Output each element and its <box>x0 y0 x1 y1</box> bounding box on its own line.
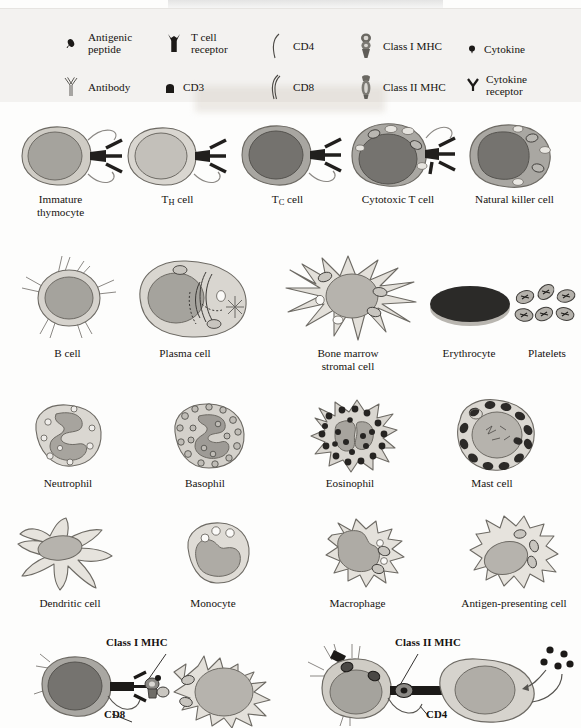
monocyte-art <box>178 518 258 590</box>
cell-label-natural-killer-cell: Natural killer cell <box>452 193 577 206</box>
cell-label-b-cell: B cell <box>20 347 115 360</box>
scan-artifact-band <box>168 0 443 8</box>
eosinophil-art <box>305 396 401 474</box>
immature-thymocyte-art <box>10 118 125 193</box>
cell-label-immature-thymocyte: Immature thymocyte <box>13 193 108 219</box>
th-cell-art <box>118 120 230 192</box>
cell-label-antigen-presenting-cell: Antigen-presenting cell <box>448 597 580 610</box>
cd3-icon <box>163 72 177 102</box>
neutrophil-art <box>22 400 114 472</box>
cell-label-tc-cell: TC cell <box>240 193 335 209</box>
tc-cell-label-text: TC cell <box>272 193 303 205</box>
cd4-icon <box>265 31 287 61</box>
class-ii-mhc-interaction-art <box>300 640 578 728</box>
macrophage-art <box>318 515 410 591</box>
legend-label: T cell receptor <box>191 31 228 56</box>
legend-item-antigenic-peptide: Antigenic peptide <box>60 28 132 58</box>
legend-item-antibody: Antibody <box>60 72 130 102</box>
plasma-cell-art <box>128 252 258 344</box>
cell-label-bone-marrow-stromal-cell: Bone marrow stromal cell <box>293 347 403 373</box>
cell-label-erythrocyte: Erythrocyte <box>424 347 514 360</box>
legend-item-class-i-mhc: Class I MHC <box>355 31 442 61</box>
dendritic-cell-art <box>10 512 122 594</box>
basophil-art <box>163 398 255 474</box>
mast-cell-art <box>448 396 544 474</box>
cell-label-cytotoxic-t-cell: Cytotoxic T cell <box>338 193 458 206</box>
tc-cell-art <box>232 118 344 192</box>
legend-label: CD4 <box>293 40 314 52</box>
cell-label-plasma-cell: Plasma cell <box>130 347 240 360</box>
b-cell-art <box>14 252 124 344</box>
cell-label-eosinophil: Eosinophil <box>300 477 400 490</box>
legend-label: Antibody <box>88 81 130 93</box>
bone-marrow-stromal-cell-art <box>282 250 422 346</box>
cell-label-th-cell: TH cell <box>130 193 225 209</box>
natural-killer-cell-art <box>460 116 570 194</box>
legend-label: Class II MHC <box>383 81 446 93</box>
legend-label: Antigenic peptide <box>88 31 132 56</box>
interaction-label-class-i-mhc: Class I MHC <box>106 636 168 648</box>
class-i-mhc-icon <box>355 31 377 61</box>
legend-item-cd8: CD8 <box>265 72 314 102</box>
cell-label-mast-cell: Mast cell <box>442 477 542 490</box>
legend-label: CD8 <box>293 81 314 93</box>
legend-item-class-ii-mhc: Class II MHC <box>355 72 446 102</box>
th-cell-label-text: TH cell <box>162 193 194 205</box>
t-cell-receptor-icon <box>163 28 185 58</box>
legend-label: Class I MHC <box>383 40 442 52</box>
antigenic-peptide-icon <box>60 28 82 58</box>
cytotoxic-t-cell-art <box>340 114 460 194</box>
legend-item-cytokine: Cytokine <box>466 34 525 64</box>
platelets-art <box>512 283 580 331</box>
cytokine-receptor-icon <box>466 70 480 100</box>
erythrocyte-art <box>425 283 515 329</box>
cell-label-platelets: Platelets <box>512 347 581 360</box>
cell-label-macrophage: Macrophage <box>305 597 410 610</box>
legend-item-cytokine-receptor: Cytokine receptor <box>466 70 527 100</box>
legend-item-cd4: CD4 <box>265 31 314 61</box>
legend-label: Cytokine receptor <box>486 73 527 98</box>
antibody-icon <box>60 72 82 102</box>
cytokine-icon <box>466 34 478 64</box>
legend-item-t-cell-receptor: T cell receptor <box>163 28 228 58</box>
legend-label: CD3 <box>183 81 204 93</box>
legend-item-cd3: CD3 <box>163 72 204 102</box>
cell-label-monocyte: Monocyte <box>163 597 263 610</box>
cd8-icon <box>265 72 287 102</box>
class-ii-mhc-icon <box>355 72 377 102</box>
cell-label-basophil: Basophil <box>155 477 255 490</box>
cell-label-neutrophil: Neutrophil <box>18 477 118 490</box>
class-i-mhc-interaction-art <box>28 648 290 728</box>
cell-label-dendritic-cell: Dendritic cell <box>15 597 125 610</box>
antigen-presenting-cell-art <box>462 512 564 592</box>
legend-label: Cytokine <box>484 43 525 55</box>
